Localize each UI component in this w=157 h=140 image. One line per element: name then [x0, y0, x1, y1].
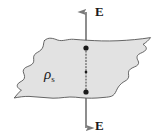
mid-point-dot	[85, 71, 88, 74]
electric-field-label-top: E	[95, 5, 104, 18]
rho-subscript: s	[51, 74, 55, 84]
upper-intersection-dot	[83, 45, 88, 50]
physics-diagram-infinite-sheet: E E ρs	[0, 0, 157, 140]
surface-charge-density-label: ρs	[44, 67, 55, 82]
lower-intersection-dot	[83, 89, 88, 94]
diagram-canvas	[0, 0, 157, 140]
charged-sheet-surface	[14, 38, 150, 99]
electric-field-label-bottom: E	[95, 119, 104, 132]
